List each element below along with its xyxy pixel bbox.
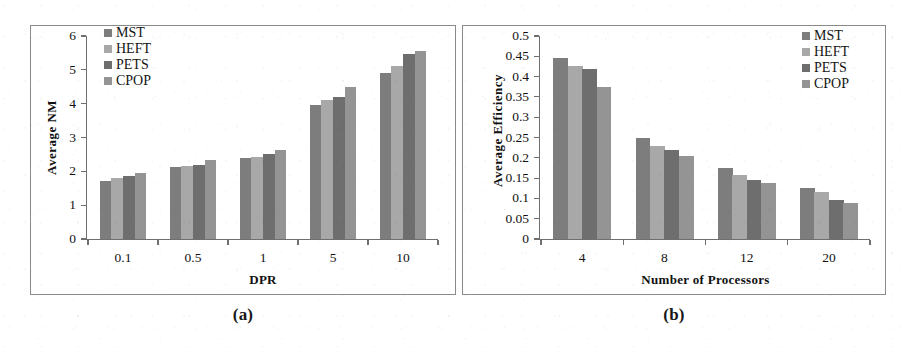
y-tick xyxy=(534,137,539,138)
y-tick xyxy=(81,171,86,172)
legend-item: CPOP xyxy=(104,73,151,89)
bar-heft-5 xyxy=(321,100,333,239)
y-tick xyxy=(81,238,86,239)
legend-swatch-cpop xyxy=(104,77,112,85)
panel-a-caption: (a) xyxy=(30,305,456,325)
legend-item: HEFT xyxy=(802,44,849,60)
legend-swatch-pets xyxy=(802,64,810,72)
x-tick-label: 0.5 xyxy=(158,251,228,265)
y-tick-label: 0.05 xyxy=(458,212,529,226)
y-tick xyxy=(81,103,86,104)
bar-cpop-0.1 xyxy=(135,173,147,239)
y-tick xyxy=(534,96,539,97)
bar-cpop-0.5 xyxy=(205,160,217,239)
x-tick xyxy=(367,240,368,245)
x-tick xyxy=(787,240,788,245)
panel-a-y-axis xyxy=(86,36,87,239)
legend-swatch-heft xyxy=(802,48,810,56)
panel-b-legend: MST HEFT PETS CPOP xyxy=(802,28,849,92)
y-tick xyxy=(534,238,539,239)
x-tick-label: 4 xyxy=(541,251,623,265)
legend-item: PETS xyxy=(104,57,151,73)
legend-item: HEFT xyxy=(104,41,151,57)
y-tick xyxy=(81,137,86,138)
bar-pets-1 xyxy=(263,154,275,239)
x-tick xyxy=(297,240,298,245)
x-tick xyxy=(437,240,438,245)
x-tick xyxy=(157,240,158,245)
y-tick xyxy=(534,35,539,36)
y-tick xyxy=(81,69,86,70)
legend-label-heft: HEFT xyxy=(814,45,849,59)
x-tick xyxy=(227,240,228,245)
y-tick-label: 5 xyxy=(0,63,76,77)
bar-pets-20 xyxy=(829,200,844,239)
legend-swatch-heft xyxy=(104,45,112,53)
bar-mst-5 xyxy=(310,105,322,239)
legend-swatch-mst xyxy=(802,32,810,40)
y-tick-label: 0 xyxy=(0,232,76,246)
bar-cpop-5 xyxy=(345,87,357,239)
legend-swatch-mst xyxy=(104,29,112,37)
x-tick-label: 20 xyxy=(788,251,870,265)
bar-pets-12 xyxy=(747,180,762,239)
panel-a-x-axis-title: DPR xyxy=(88,272,438,288)
legend-label-cpop: CPOP xyxy=(814,77,849,91)
panel-b-x-axis-title: Number of Processors xyxy=(541,272,870,288)
panel-b-caption: (b) xyxy=(462,305,886,325)
bar-mst-4 xyxy=(553,58,568,239)
y-tick xyxy=(534,117,539,118)
y-tick-label: 0.1 xyxy=(458,191,529,205)
panel-a: 0123456 0.10.51510 Average NM DPR MST HE… xyxy=(0,0,458,347)
panel-b-y-axis-title: Average Efficiency xyxy=(490,74,506,187)
legend-item: MST xyxy=(104,25,151,41)
bar-mst-1 xyxy=(240,158,252,239)
y-tick-label: 4 xyxy=(0,97,76,111)
bar-mst-12 xyxy=(718,168,733,239)
legend-label-pets: PETS xyxy=(116,58,149,72)
bar-mst-20 xyxy=(800,188,815,239)
y-tick xyxy=(534,157,539,158)
y-tick xyxy=(534,198,539,199)
bar-heft-0.1 xyxy=(111,178,123,239)
x-tick xyxy=(540,240,541,245)
legend-label-mst: MST xyxy=(116,26,145,40)
bar-cpop-8 xyxy=(679,156,694,239)
legend-label-cpop: CPOP xyxy=(116,74,151,88)
y-tick xyxy=(81,205,86,206)
panel-a-x-axis xyxy=(86,239,438,240)
y-tick-label: 2 xyxy=(0,164,76,178)
x-tick-label: 10 xyxy=(368,251,438,265)
bar-heft-0.5 xyxy=(181,166,193,239)
y-tick xyxy=(534,178,539,179)
y-tick-label: 6 xyxy=(0,29,76,43)
bar-pets-0.1 xyxy=(123,176,135,239)
x-tick xyxy=(87,240,88,245)
x-tick-label: 5 xyxy=(298,251,368,265)
bar-mst-0.1 xyxy=(100,181,112,239)
y-tick xyxy=(534,76,539,77)
y-tick-label: 0 xyxy=(458,232,529,246)
y-tick-label: 3 xyxy=(0,131,76,145)
panel-b: 00.050.10.150.20.250.30.350.40.450.5 481… xyxy=(458,0,903,347)
legend-label-pets: PETS xyxy=(814,61,847,75)
bar-mst-10 xyxy=(380,73,392,239)
bar-pets-0.5 xyxy=(193,165,205,239)
bar-pets-5 xyxy=(333,97,345,239)
legend-label-mst: MST xyxy=(814,29,843,43)
legend-item: MST xyxy=(802,28,849,44)
x-tick-label: 12 xyxy=(706,251,788,265)
x-tick xyxy=(869,240,870,245)
legend-item: PETS xyxy=(802,60,849,76)
panel-a-y-axis-title: Average NM xyxy=(44,100,60,175)
x-tick-label: 0.1 xyxy=(88,251,158,265)
bar-heft-12 xyxy=(732,175,747,239)
y-tick xyxy=(534,218,539,219)
legend-swatch-pets xyxy=(104,61,112,69)
legend-swatch-cpop xyxy=(802,80,810,88)
legend-label-heft: HEFT xyxy=(116,42,151,56)
x-tick-label: 8 xyxy=(623,251,705,265)
x-tick xyxy=(623,240,624,245)
bar-cpop-20 xyxy=(843,203,858,239)
bar-cpop-1 xyxy=(275,150,287,239)
